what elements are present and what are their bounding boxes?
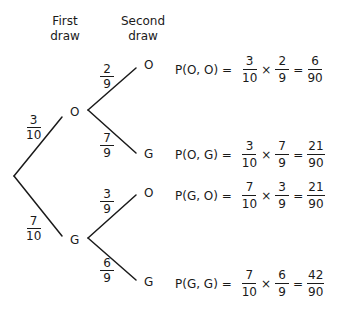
node-second-OG: G	[144, 148, 153, 160]
numerator: 3	[275, 180, 289, 196]
numerator: 7	[242, 268, 256, 284]
equals-sign: =	[293, 277, 303, 291]
denominator: 9	[278, 196, 286, 211]
fraction-a: 710	[242, 180, 257, 211]
equation-label: P(O, G) =	[175, 148, 232, 162]
fraction-result: 2190	[307, 180, 324, 211]
fraction-a: 310	[242, 139, 257, 170]
numerator: 7	[100, 132, 114, 146]
equals-sign: =	[293, 189, 303, 203]
node-second-OO: O	[144, 59, 153, 71]
numerator: 21	[307, 180, 324, 196]
fraction-a: 310	[242, 54, 257, 85]
numerator: 21	[307, 139, 324, 155]
numerator: 3	[242, 139, 256, 155]
header-second-draw: Second draw	[113, 14, 173, 44]
denominator: 9	[278, 155, 286, 170]
denominator: 9	[103, 146, 111, 159]
fraction-result: 690	[307, 54, 322, 85]
times-sign: ×	[261, 189, 271, 203]
numerator: 7	[275, 139, 289, 155]
denominator: 9	[278, 284, 286, 299]
prob-first-G: 7 10	[26, 215, 41, 242]
header-second-line1: Second	[113, 14, 173, 29]
fraction-b: 29	[275, 54, 289, 85]
header-first-draw: First draw	[35, 14, 95, 44]
denominator: 90	[307, 70, 322, 85]
equation-GO: P(G, O) = 710 × 39 = 2190	[175, 180, 325, 211]
denominator: 90	[308, 284, 323, 299]
numerator: 7	[242, 180, 256, 196]
fraction-a: 710	[242, 268, 257, 299]
equation-label: P(G, G) =	[175, 277, 232, 291]
equation-OG: P(O, G) = 310 × 79 = 2190	[175, 139, 325, 170]
node-second-GG: G	[144, 276, 153, 288]
numerator: 3	[100, 188, 114, 202]
denominator: 9	[103, 202, 111, 215]
numerator: 3	[243, 54, 257, 70]
denominator: 10	[242, 70, 257, 85]
node-first-G: G	[70, 234, 79, 246]
numerator: 6	[100, 257, 114, 271]
equation-label: P(G, O) =	[175, 189, 232, 203]
equation-label: P(O, O) =	[175, 63, 232, 77]
equals-sign: =	[293, 63, 303, 77]
equation-OO: P(O, O) = 310 × 29 = 690	[175, 54, 323, 85]
prob-second-OG: 7 9	[100, 132, 114, 159]
denominator: 10	[242, 196, 257, 211]
header-first-line1: First	[35, 14, 95, 29]
numerator: 6	[308, 54, 322, 70]
header-first-line2: draw	[35, 29, 95, 44]
denominator: 9	[279, 70, 287, 85]
denominator: 9	[103, 77, 111, 90]
times-sign: ×	[261, 277, 271, 291]
prob-second-OO: 2 9	[100, 63, 114, 90]
numerator: 3	[27, 114, 41, 128]
denominator: 9	[103, 271, 111, 284]
equation-GG: P(G, G) = 710 × 69 = 4290	[175, 268, 324, 299]
times-sign: ×	[261, 63, 271, 77]
fraction-b: 69	[275, 268, 289, 299]
denominator: 10	[242, 155, 257, 170]
fraction-result: 2190	[307, 139, 324, 170]
prob-second-GG: 6 9	[100, 257, 114, 284]
node-first-O: O	[70, 106, 79, 118]
node-second-GO: O	[144, 187, 153, 199]
denominator: 10	[242, 284, 257, 299]
denominator: 90	[308, 196, 323, 211]
equals-sign: =	[293, 148, 303, 162]
header-second-line2: draw	[113, 29, 173, 44]
fraction-b: 79	[275, 139, 289, 170]
numerator: 2	[275, 54, 289, 70]
fraction-result: 4290	[307, 268, 324, 299]
numerator: 2	[100, 63, 114, 77]
denominator: 10	[26, 229, 41, 242]
numerator: 7	[27, 215, 41, 229]
prob-second-GO: 3 9	[100, 188, 114, 215]
times-sign: ×	[261, 148, 271, 162]
numerator: 6	[275, 268, 289, 284]
numerator: 42	[307, 268, 324, 284]
denominator: 90	[308, 155, 323, 170]
fraction-b: 39	[275, 180, 289, 211]
denominator: 10	[26, 128, 41, 141]
prob-first-O: 3 10	[26, 114, 41, 141]
